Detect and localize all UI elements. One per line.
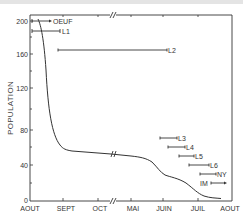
- stage-labels: OEUF L1 L2 L3 L4 L5 L6 NY IM: [53, 18, 227, 187]
- stage-label-ny: NY: [217, 171, 227, 178]
- stage-label-oeuf: OEUF: [53, 18, 72, 25]
- x-tick-aout-start: AOUT: [20, 205, 40, 212]
- y-tick-0: 0: [24, 197, 28, 204]
- stage-label-l6: L6: [210, 162, 218, 169]
- axis-break-bottom: [110, 198, 116, 204]
- x-ticks: [63, 15, 198, 201]
- y-tick-160: 160: [16, 51, 28, 58]
- stage-label-l3: L3: [178, 135, 186, 142]
- x-tick-mai: MAI: [127, 205, 140, 212]
- y-tick-200: 200: [16, 18, 28, 25]
- x-tick-sept: SEPT: [57, 205, 76, 212]
- stage-bars: [32, 19, 227, 185]
- stage-label-im: IM: [200, 180, 208, 187]
- x-tick-juin: JUIN: [156, 205, 172, 212]
- stage-label-l2: L2: [168, 47, 176, 54]
- y-tick-120: 120: [16, 85, 28, 92]
- plot-frame: [30, 15, 232, 201]
- stage-label-l5: L5: [195, 153, 203, 160]
- x-tick-aout-end: AOUT: [220, 205, 240, 212]
- y-tick-80: 80: [20, 127, 28, 134]
- y-tick-labels: 200 160 120 80 40 0: [16, 18, 28, 205]
- stage-label-l1: L1: [62, 28, 70, 35]
- x-tick-oct: OCT: [93, 205, 109, 212]
- x-tick-juil: JUIL: [191, 205, 206, 212]
- population-curve: [38, 19, 221, 199]
- x-tick-labels: AOUT SEPT OCT MAI JUIN JUIL AOUT: [20, 205, 240, 212]
- axis-break-top: [110, 12, 116, 18]
- population-chart: 200 160 120 80 40 0 POPULATION AOUT SEPT…: [0, 0, 243, 218]
- y-tick-40: 40: [20, 162, 28, 169]
- y-axis-label: POPULATION: [6, 81, 15, 135]
- stage-label-l4: L4: [186, 144, 194, 151]
- y-ticks: [30, 21, 33, 183]
